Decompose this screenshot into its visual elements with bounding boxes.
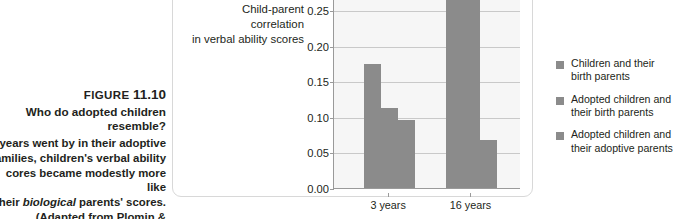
y-axis-tick-mark: [330, 11, 334, 12]
figure-description-line-4-post: parents' scores.: [76, 196, 166, 208]
figure-description-line-4: their biological parents' scores.: [0, 195, 166, 210]
legend-item-label: Adopted children andtheir birth parents: [571, 93, 671, 120]
gridline: [334, 118, 520, 119]
legend-item-label-line-1: Children and their: [571, 57, 655, 70]
figure-title-line-2: resemble?: [0, 119, 166, 134]
gridline: [334, 11, 520, 12]
bar: [364, 64, 381, 189]
legend-item-label-line-1: Adopted children and: [571, 93, 671, 106]
y-axis-tick-label: 0.05: [289, 147, 329, 159]
y-axis-tick-label: 0.20: [289, 41, 329, 53]
y-axis-tick-label: 0.00: [289, 183, 329, 195]
x-axis-tick-mark: [388, 193, 389, 197]
figure-container: FIGURE 11.10 Who do adopted children res…: [0, 0, 682, 219]
legend-item-label-line-1: Adopted children and: [571, 128, 673, 141]
figure-label: FIGURE: [84, 89, 130, 101]
bar: [398, 120, 415, 188]
plot-area: [333, 0, 520, 189]
bar: [446, 0, 463, 188]
y-axis-tick-mark: [330, 153, 334, 154]
figure-title-line-1: Who do adopted children: [0, 105, 166, 120]
x-axis-tick-label: 3 years: [370, 199, 405, 211]
y-axis-title-line-2: in verbal ability scores: [186, 32, 304, 47]
figure-title: Who do adopted children resemble?: [0, 105, 166, 134]
gridline: [334, 47, 520, 48]
x-axis-tick-mark: [470, 193, 471, 197]
legend-item-label-line-2: their birth parents: [571, 106, 671, 119]
figure-description: e years went by in their adoptive famili…: [0, 136, 166, 219]
legend-swatch-icon: [556, 61, 564, 69]
legend-item-label: Children and theirbirth parents: [571, 57, 655, 84]
legend-item: Adopted children andtheir adoptive paren…: [556, 128, 682, 155]
figure-number-line: FIGURE 11.10: [0, 86, 166, 104]
y-axis-tick-mark: [330, 189, 334, 190]
y-axis-title: Child-parent correlation in verbal abili…: [186, 2, 304, 47]
y-axis-tick-label: 0.15: [289, 76, 329, 88]
figure-number: 11.10: [133, 87, 166, 102]
gridline: [334, 82, 520, 83]
y-axis-title-line-1: Child-parent correlation: [186, 2, 304, 32]
bar: [480, 140, 497, 188]
legend-item-label-line-2: birth parents: [571, 70, 655, 83]
y-axis-tick-labels: 0.000.050.100.150.200.250.30: [288, 0, 329, 189]
legend-item-label: Adopted children andtheir adoptive paren…: [571, 128, 673, 155]
figure-description-line-2: families, children's verbal ability: [0, 151, 166, 166]
legend-item: Adopted children andtheir birth parents: [556, 93, 682, 120]
figure-caption: FIGURE 11.10 Who do adopted children res…: [0, 86, 166, 219]
x-axis-tick-label: 16 years: [450, 199, 491, 211]
legend-item-label-line-2: their adoptive parents: [571, 142, 673, 155]
y-axis-tick-label: 0.25: [289, 5, 329, 17]
figure-description-emphasis: biological: [23, 196, 76, 208]
bar: [381, 108, 398, 188]
chart-legend: Children and theirbirth parentsAdopted c…: [556, 57, 682, 164]
x-axis-tick-labels: 3 years16 years: [333, 193, 520, 211]
figure-description-line-4-pre: their: [0, 196, 23, 208]
figure-description-line-3: cores became modestly more like: [0, 166, 166, 196]
bar: [463, 0, 480, 188]
y-axis-tick-mark: [330, 47, 334, 48]
y-axis-tick-label: 0.10: [289, 112, 329, 124]
y-axis-tick-mark: [330, 82, 334, 83]
legend-swatch-icon: [556, 132, 564, 140]
legend-swatch-icon: [556, 97, 564, 105]
figure-source-line-1: (Adapted from Plomin &: [0, 210, 166, 219]
y-axis-tick-mark: [330, 118, 334, 119]
legend-item: Children and theirbirth parents: [556, 57, 682, 84]
figure-description-line-1: e years went by in their adoptive: [0, 136, 166, 151]
